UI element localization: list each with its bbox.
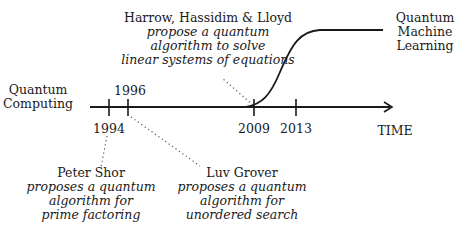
event-title: Harrow, Hassidim & Lloyd bbox=[121, 11, 294, 25]
event-description-line: algorithm for bbox=[177, 194, 306, 208]
tick-label-2013: 2013 bbox=[280, 122, 312, 136]
axis-label: TIME bbox=[377, 124, 412, 138]
tick-label-2009: 2009 bbox=[238, 122, 270, 136]
event-grover: Luv Grover proposes a quantum algorithm … bbox=[177, 166, 306, 222]
connector-1994 bbox=[101, 136, 107, 167]
start-label: Quantum Computing bbox=[3, 83, 73, 111]
end-label-line: Learning bbox=[396, 39, 455, 53]
start-label-line: Quantum bbox=[3, 83, 73, 97]
event-description-line: unordered search bbox=[177, 208, 306, 222]
event-description-line: linear systems of equations bbox=[121, 53, 294, 67]
connector-2009 bbox=[222, 78, 253, 105]
event-shor: Peter Shor proposes a quantum algorithm … bbox=[26, 166, 155, 222]
connector-1996 bbox=[131, 117, 200, 166]
end-label-line: Quantum bbox=[396, 11, 455, 25]
tick-label-1994: 1994 bbox=[93, 122, 125, 136]
event-description-line: algorithm for bbox=[26, 194, 155, 208]
event-hhl: Harrow, Hassidim & Lloyd propose a quant… bbox=[121, 11, 294, 67]
start-label-line: Computing bbox=[3, 97, 73, 111]
event-title: Peter Shor bbox=[26, 166, 155, 180]
end-label: Quantum Machine Learning bbox=[396, 11, 455, 53]
tick-label-1996: 1996 bbox=[114, 84, 146, 98]
event-description-line: proposes a quantum bbox=[177, 180, 306, 194]
event-description-line: propose a quantum bbox=[121, 25, 294, 39]
event-description-line: prime factoring bbox=[26, 208, 155, 222]
event-description-line: algorithm to solve bbox=[121, 39, 294, 53]
event-title: Luv Grover bbox=[177, 166, 306, 180]
event-description-line: proposes a quantum bbox=[26, 180, 155, 194]
end-label-line: Machine bbox=[396, 25, 455, 39]
